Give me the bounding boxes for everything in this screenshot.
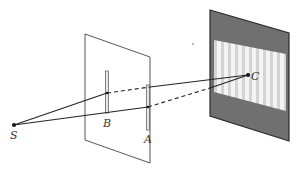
slit-a-point (147, 106, 149, 108)
ray-a-dashed (148, 88, 210, 107)
source-point (12, 123, 16, 127)
double-slit-diagram: S B A C (0, 0, 300, 178)
slit-b-point (106, 92, 108, 94)
label-c: C (251, 70, 260, 83)
label-a: A (143, 133, 152, 146)
label-b: B (102, 117, 111, 130)
stray-mark (192, 43, 194, 45)
barrier-plane (85, 34, 150, 163)
label-s: S (10, 129, 18, 142)
screen-point-c (246, 73, 250, 77)
